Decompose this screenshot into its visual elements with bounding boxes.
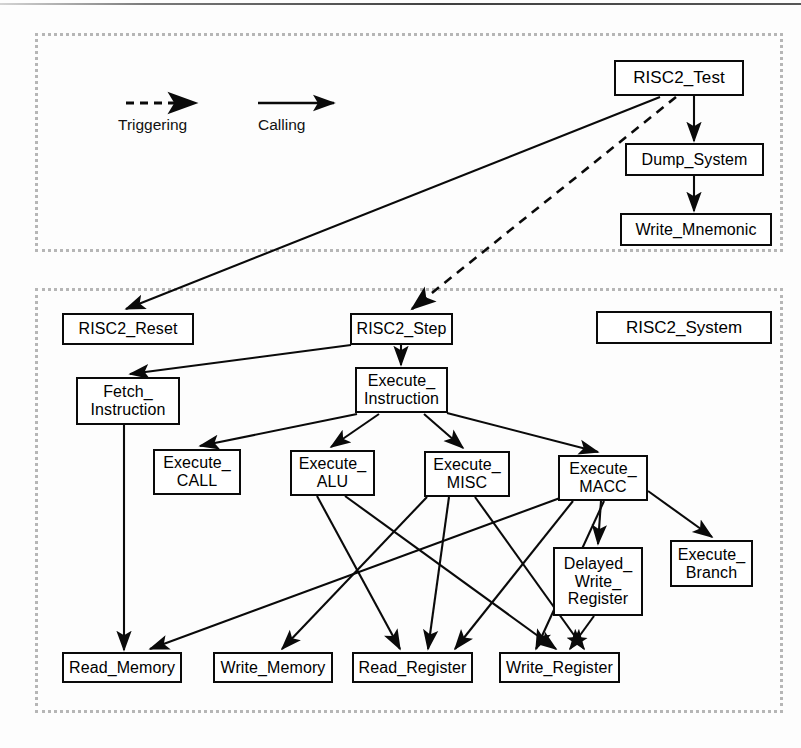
node-execute-misc[interactable]: Execute_ MISC <box>424 451 510 497</box>
node-read-register[interactable]: Read_Register <box>352 652 473 683</box>
node-execute-alu[interactable]: Execute_ ALU <box>290 450 375 496</box>
node-execute-branch[interactable]: Execute_ Branch <box>670 540 753 587</box>
node-risc2-reset[interactable]: RISC2_Reset <box>62 313 194 345</box>
node-write-memory[interactable]: Write_Memory <box>213 652 333 683</box>
legend-label-triggering: Triggering <box>118 116 187 134</box>
panel-risc2-system <box>35 288 783 713</box>
scan-edge-line <box>0 3 801 5</box>
node-execute-call[interactable]: Execute_ CALL <box>153 449 241 495</box>
node-execute-instruction[interactable]: Execute_ Instruction <box>355 367 448 413</box>
diagram-page: Triggering Calling RISC2_System RISC2_Te… <box>0 0 801 748</box>
node-risc2-test[interactable]: RISC2_Test <box>614 60 744 96</box>
node-risc2-step[interactable]: RISC2_Step <box>350 313 453 345</box>
legend-label-calling: Calling <box>258 116 305 134</box>
node-write-mnemonic[interactable]: Write_Mnemonic <box>620 213 772 246</box>
node-delayed-write-register[interactable]: Delayed_ Write_ Register <box>553 547 643 616</box>
node-read-memory[interactable]: Read_Memory <box>62 652 182 683</box>
node-fetch-instruction[interactable]: Fetch_ Instruction <box>76 377 180 425</box>
node-write-register[interactable]: Write_Register <box>499 652 620 683</box>
node-dump-system[interactable]: Dump_System <box>625 143 764 176</box>
panel-label-risc2-system: RISC2_System <box>596 311 772 344</box>
node-execute-macc[interactable]: Execute_ MACC <box>558 455 648 501</box>
